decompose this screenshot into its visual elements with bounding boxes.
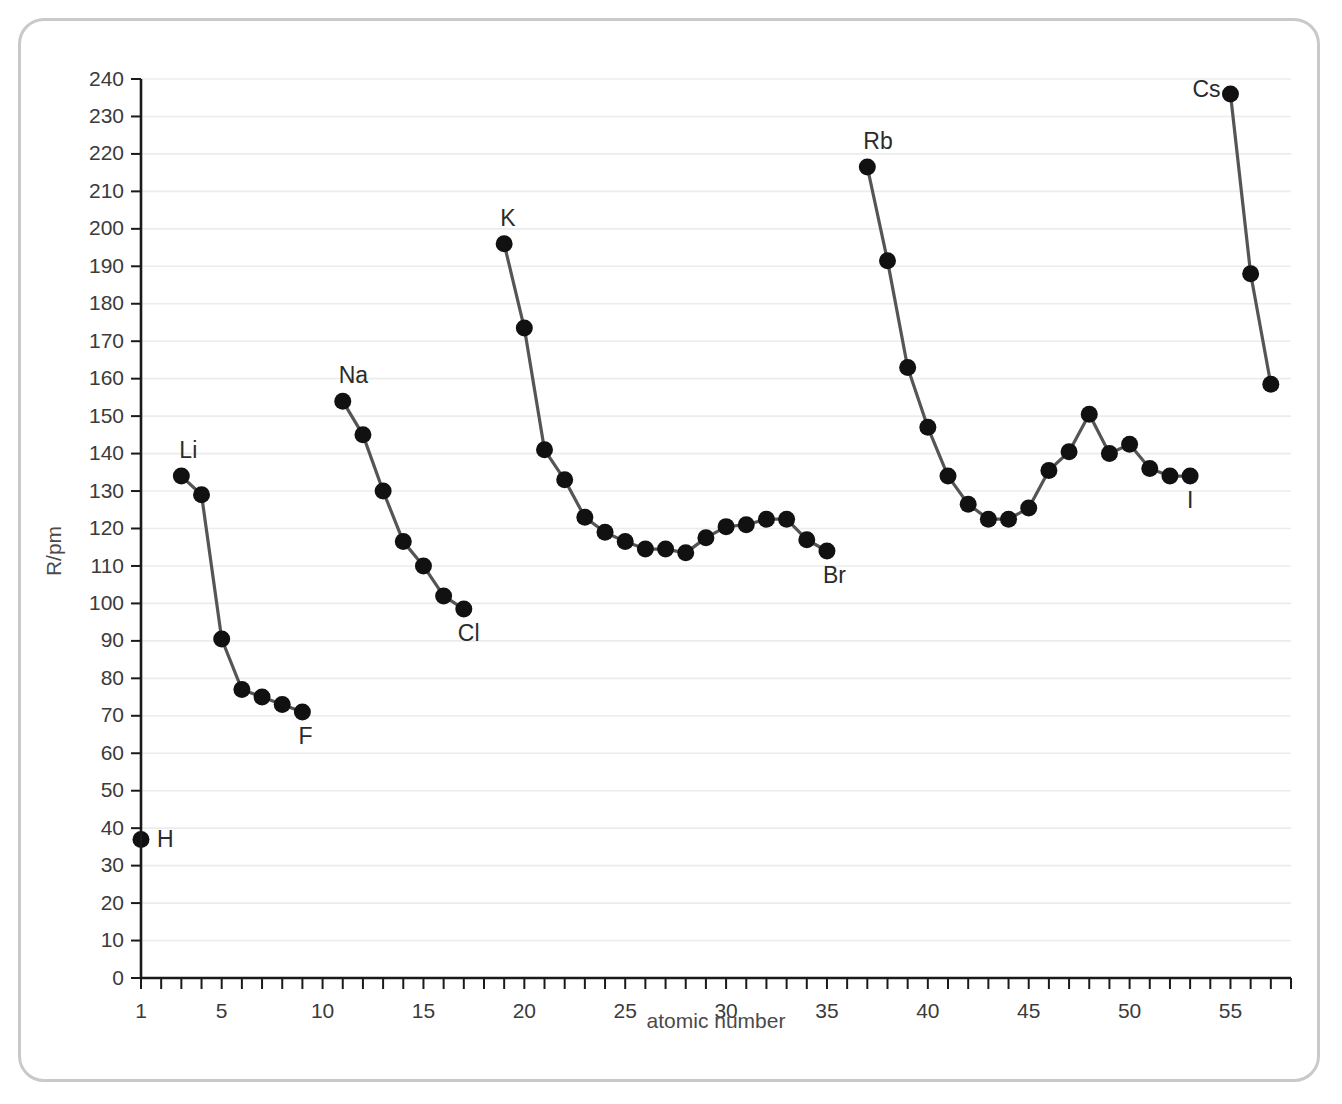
data-point xyxy=(435,587,452,604)
point-label-cl: Cl xyxy=(458,620,480,646)
data-point xyxy=(455,601,472,618)
y-tick-label: 70 xyxy=(101,703,124,726)
x-tick-label: 5 xyxy=(216,999,228,1022)
data-point xyxy=(899,359,916,376)
data-point xyxy=(960,496,977,513)
data-point xyxy=(213,631,230,648)
data-point xyxy=(980,511,997,528)
data-point xyxy=(274,696,291,713)
data-point xyxy=(1222,85,1239,102)
x-tick-label: 25 xyxy=(614,999,637,1022)
series-line-period-2 xyxy=(181,476,302,712)
figure-frame: 0102030405060708090100110120130140150160… xyxy=(18,18,1320,1082)
data-point xyxy=(1121,436,1138,453)
point-label-li: Li xyxy=(179,437,197,463)
y-tick-label: 0 xyxy=(112,966,124,989)
y-tick-label: 50 xyxy=(101,778,124,801)
x-tick-label: 20 xyxy=(513,999,536,1022)
point-label-f: F xyxy=(298,723,312,749)
data-point xyxy=(1182,468,1199,485)
y-tick-label: 220 xyxy=(89,141,124,164)
gridlines-group xyxy=(141,79,1291,941)
radius-vs-atomic-number-chart: 0102030405060708090100110120130140150160… xyxy=(21,21,1323,1085)
data-point xyxy=(1020,499,1037,516)
data-point xyxy=(395,533,412,550)
data-point xyxy=(677,544,694,561)
data-point xyxy=(859,159,876,176)
data-point xyxy=(375,483,392,500)
x-tick-label: 15 xyxy=(412,999,435,1022)
y-tick-label: 190 xyxy=(89,254,124,277)
y-axis-title: R/pm xyxy=(42,526,65,576)
data-point xyxy=(758,511,775,528)
data-point xyxy=(940,468,957,485)
x-tick-label: 55 xyxy=(1219,999,1242,1022)
x-tick-label: 35 xyxy=(815,999,838,1022)
data-point xyxy=(254,689,271,706)
data-point-labels: HLiFNaClKBrRbICs xyxy=(157,76,1221,852)
data-point xyxy=(1061,443,1078,460)
y-tick-label: 240 xyxy=(89,67,124,90)
data-point xyxy=(718,518,735,535)
y-tick-label: 60 xyxy=(101,741,124,764)
y-tick-label: 130 xyxy=(89,479,124,502)
point-label-i: I xyxy=(1187,487,1193,513)
data-point xyxy=(1262,376,1279,393)
y-tick-label: 10 xyxy=(101,928,124,951)
x-tick-label: 1 xyxy=(135,999,147,1022)
data-point xyxy=(415,557,432,574)
x-axis-title: atomic number xyxy=(647,1009,786,1032)
y-axis: 0102030405060708090100110120130140150160… xyxy=(89,67,141,989)
y-tick-label: 200 xyxy=(89,216,124,239)
data-point xyxy=(1141,460,1158,477)
point-label-h: H xyxy=(157,826,174,852)
y-tick-label: 210 xyxy=(89,179,124,202)
y-tick-label: 40 xyxy=(101,816,124,839)
y-tick-label: 160 xyxy=(89,366,124,389)
data-point xyxy=(1081,406,1098,423)
data-point xyxy=(1161,468,1178,485)
data-point xyxy=(496,235,513,252)
y-tick-label: 20 xyxy=(101,891,124,914)
data-point xyxy=(193,486,210,503)
data-point xyxy=(536,441,553,458)
x-tick-label: 40 xyxy=(916,999,939,1022)
data-point xyxy=(697,529,714,546)
data-point xyxy=(1000,511,1017,528)
point-label-br: Br xyxy=(823,562,846,588)
series-line-period-4 xyxy=(504,244,827,553)
data-point xyxy=(637,541,654,558)
data-point xyxy=(798,531,815,548)
data-point xyxy=(516,320,533,337)
data-point xyxy=(556,471,573,488)
data-point xyxy=(617,533,634,550)
y-tick-label: 150 xyxy=(89,404,124,427)
data-point xyxy=(657,541,674,558)
data-point xyxy=(294,704,311,721)
data-point xyxy=(778,511,795,528)
point-label-cs: Cs xyxy=(1192,76,1220,102)
y-tick-label: 80 xyxy=(101,666,124,689)
y-tick-label: 100 xyxy=(89,591,124,614)
point-label-na: Na xyxy=(339,362,369,388)
data-point xyxy=(597,524,614,541)
data-point xyxy=(738,516,755,533)
data-point xyxy=(1040,462,1057,479)
data-point xyxy=(879,252,896,269)
x-tick-label: 10 xyxy=(311,999,334,1022)
data-point xyxy=(233,681,250,698)
data-point xyxy=(173,468,190,485)
y-tick-label: 180 xyxy=(89,291,124,314)
data-point xyxy=(334,393,351,410)
data-point xyxy=(354,426,371,443)
data-point xyxy=(1101,445,1118,462)
y-tick-label: 90 xyxy=(101,628,124,651)
point-label-k: K xyxy=(500,205,516,231)
data-point xyxy=(1242,265,1259,282)
x-tick-label: 45 xyxy=(1017,999,1040,1022)
x-tick-label: 50 xyxy=(1118,999,1141,1022)
y-tick-label: 120 xyxy=(89,516,124,539)
y-tick-label: 30 xyxy=(101,853,124,876)
y-tick-label: 140 xyxy=(89,441,124,464)
data-point xyxy=(818,542,835,559)
